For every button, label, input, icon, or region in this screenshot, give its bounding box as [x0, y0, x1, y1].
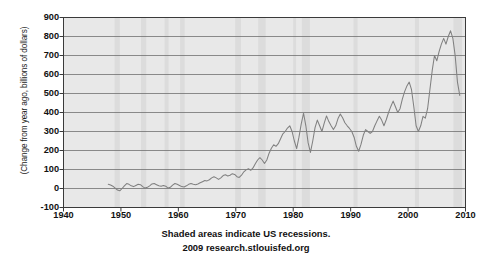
x-tick-label-6: 2000	[386, 210, 430, 220]
y-tick-label-0: 900	[33, 13, 59, 22]
y-tick-label-5: 400	[33, 108, 59, 117]
x-tick-label-2: 1960	[156, 210, 200, 220]
chart-figure: (Change from year ago, billions of dolla…	[0, 0, 492, 262]
y-tick-label-6: 300	[33, 127, 59, 136]
y-tick-label-1: 800	[33, 32, 59, 41]
x-tick-label-7: 2010	[444, 210, 488, 220]
y-tick-label-3: 600	[33, 70, 59, 79]
caption-recessions: Shaded areas indicate US recessions.	[0, 228, 492, 239]
y-tick-label-8: 100	[33, 165, 59, 174]
x-tick-label-1: 1950	[99, 210, 143, 220]
plot-area	[0, 0, 492, 262]
x-tick-label-0: 1940	[42, 210, 86, 220]
y-tick-label-4: 500	[33, 89, 59, 98]
y-tick-label-9: 0	[33, 184, 59, 193]
y-axis-title: (Change from year ago, billions of dolla…	[20, 1, 29, 201]
x-tick-label-4: 1980	[271, 210, 315, 220]
y-tick-label-7: 200	[33, 146, 59, 155]
x-tick-label-5: 1990	[329, 210, 373, 220]
y-tick-label-2: 700	[33, 51, 59, 60]
y-axis-tick-labels: 9008007006005004003002001000-100	[31, 0, 59, 262]
x-tick-label-3: 1970	[214, 210, 258, 220]
caption-source: 2009 research.stlouisfed.org	[0, 242, 492, 253]
